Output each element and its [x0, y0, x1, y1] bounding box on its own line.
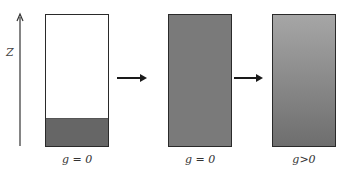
z-axis-arrow [17, 14, 23, 146]
panel-initial-container [45, 14, 109, 147]
panel-3-label: g>0 [272, 153, 336, 166]
transition-arrow-2 [234, 74, 263, 82]
panel-1-label: g = 0 [45, 153, 109, 166]
z-axis-label: Z [6, 46, 14, 59]
panel-uniform-container [168, 14, 232, 147]
settled-layer [46, 118, 108, 146]
panel-2-label: g = 0 [168, 153, 232, 166]
panel-gradient-container [272, 14, 336, 147]
transition-arrow-1 [117, 74, 147, 82]
